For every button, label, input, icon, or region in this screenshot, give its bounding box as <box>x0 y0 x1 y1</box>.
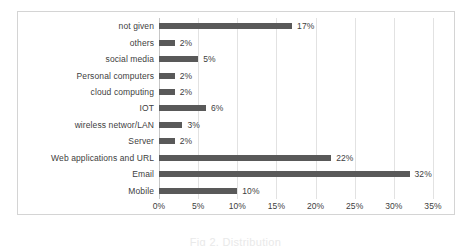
category-label: IOT <box>140 103 154 113</box>
category-row: Server <box>18 133 154 149</box>
bar-value-label: 32% <box>415 169 432 179</box>
bar-row: 6% <box>159 100 433 116</box>
bar-row: 2% <box>159 133 433 149</box>
x-tick-label: 10% <box>229 201 246 211</box>
category-row: others <box>18 34 154 50</box>
category-row: Mobile <box>18 183 154 199</box>
category-row: Web applications and URL <box>18 150 154 166</box>
bar-value-label: 3% <box>187 120 200 130</box>
bar <box>159 171 410 177</box>
bar-value-label: 22% <box>336 153 353 163</box>
category-row: wireless networ/LAN <box>18 117 154 133</box>
x-axis-tick-labels: 0%5%10%15%20%25%30%35% <box>159 201 433 215</box>
bar-value-label: 5% <box>203 54 216 64</box>
bar-row: 17% <box>159 18 433 34</box>
bar <box>159 40 175 46</box>
x-tick-label: 20% <box>307 201 324 211</box>
bar-row: 10% <box>159 183 433 199</box>
bar <box>159 188 237 194</box>
x-tick-label: 0% <box>153 201 166 211</box>
bar <box>159 138 175 144</box>
category-row: social media <box>18 51 154 67</box>
x-tick-label: 5% <box>192 201 205 211</box>
x-tick-label: 35% <box>424 201 441 211</box>
bar-row: 2% <box>159 34 433 50</box>
category-label: Personal computers <box>77 71 154 81</box>
bar <box>159 105 206 111</box>
bar <box>159 23 292 29</box>
bar-row: 22% <box>159 150 433 166</box>
x-tick-label: 25% <box>346 201 363 211</box>
bar <box>159 89 175 95</box>
category-label: social media <box>106 54 154 64</box>
category-label: wireless networ/LAN <box>75 120 154 130</box>
bar-row: 5% <box>159 51 433 67</box>
bar-value-label: 17% <box>297 21 314 31</box>
bar-row: 2% <box>159 67 433 83</box>
category-axis: not givenotherssocial mediaPersonal comp… <box>18 18 154 199</box>
x-tick-label: 15% <box>268 201 285 211</box>
category-label: others <box>130 38 154 48</box>
category-label: Server <box>128 136 154 146</box>
bar <box>159 122 182 128</box>
bar-value-label: 2% <box>180 136 193 146</box>
category-label: Mobile <box>128 186 154 196</box>
category-row: Personal computers <box>18 67 154 83</box>
category-row: cloud computing <box>18 84 154 100</box>
category-label: Web applications and URL <box>51 153 154 163</box>
bar <box>159 56 198 62</box>
bar-value-label: 2% <box>180 71 193 81</box>
figure-caption: Fig 2. Distribution <box>0 236 471 246</box>
bar-value-label: 10% <box>242 186 259 196</box>
category-row: not given <box>18 18 154 34</box>
bar-value-label: 2% <box>180 87 193 97</box>
category-label: Email <box>132 169 154 179</box>
bar-value-label: 2% <box>180 38 193 48</box>
bar-value-label: 6% <box>211 103 224 113</box>
category-label: not given <box>119 21 154 31</box>
bar <box>159 155 331 161</box>
x-tick-label: 30% <box>385 201 402 211</box>
bar-row: 3% <box>159 117 433 133</box>
category-label: cloud computing <box>91 87 154 97</box>
chart-frame: not givenotherssocial mediaPersonal comp… <box>17 11 455 215</box>
category-row: IOT <box>18 100 154 116</box>
bar <box>159 73 175 79</box>
bar-row: 2% <box>159 84 433 100</box>
plot-area: 17%2%5%2%2%6%3%2%22%32%10% <box>159 18 433 199</box>
bar-row: 32% <box>159 166 433 182</box>
gridline-35 <box>433 18 434 199</box>
category-row: Email <box>18 166 154 182</box>
